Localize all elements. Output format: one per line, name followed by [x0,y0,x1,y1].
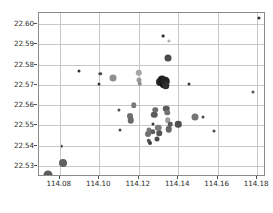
gridline-horizontal [39,166,264,167]
scatter-point [137,82,142,87]
y-tickmark [34,124,37,125]
plot-area [38,12,265,176]
scatter-point [162,82,170,90]
scatter-point [153,107,159,113]
scatter-point [258,17,261,20]
gridline-vertical [99,13,100,175]
scatter-point [43,170,52,176]
scatter-point [98,83,101,86]
scatter-point [98,72,101,75]
scatter-point [131,102,137,108]
scatter-point [165,126,172,133]
y-tick-label: 22.59 [0,39,34,48]
gridline-horizontal [39,146,264,147]
y-tick-label: 22.56 [0,100,34,109]
y-tickmark [34,84,37,85]
x-tick-label: 114.10 [86,179,111,188]
gridline-horizontal [39,85,264,86]
y-tick-label: 22.55 [0,120,34,129]
y-tickmark [34,64,37,65]
scatter-point [168,39,171,42]
x-tick-label: 114.12 [125,179,150,188]
y-tick-label: 22.60 [0,19,34,28]
y-tick-label: 22.57 [0,79,34,88]
scatter-point [151,112,158,119]
x-tick-label: 114.08 [46,179,71,188]
y-tickmark [34,43,37,44]
scatter-point [165,110,171,116]
scatter-point [161,34,164,37]
gridline-horizontal [39,44,264,45]
y-tickmark [34,165,37,166]
x-tick-label: 114.16 [204,179,229,188]
scatter-point [201,116,204,119]
scatter-plot-figure: 114.08114.10114.12114.14114.16114.1822.5… [0,0,273,213]
y-tickmark [34,104,37,105]
x-tick-label: 114.14 [165,179,190,188]
scatter-point [175,121,182,128]
scatter-point [118,128,121,131]
scatter-point [191,114,198,121]
scatter-point [78,69,81,72]
scatter-point [212,130,215,133]
gridline-vertical [257,13,258,175]
gridline-horizontal [39,65,264,66]
scatter-point [150,129,156,135]
scatter-point [154,137,159,142]
scatter-point [59,159,67,167]
gridline-vertical [60,13,61,175]
y-tick-label: 22.54 [0,140,34,149]
gridline-vertical [139,13,140,175]
scatter-point [152,122,155,125]
scatter-point [148,141,152,145]
scatter-point [128,117,135,124]
scatter-point [168,122,173,127]
scatter-point [110,74,117,81]
scatter-point [252,90,255,93]
y-tickmark [34,145,37,146]
gridline-vertical [218,13,219,175]
y-tickmark [34,23,37,24]
scatter-point [117,109,120,112]
y-tick-label: 22.53 [0,160,34,169]
gridline-vertical [178,13,179,175]
scatter-point [157,130,163,136]
scatter-point [60,145,63,148]
scatter-point [188,82,191,85]
gridline-horizontal [39,24,264,25]
gridline-horizontal [39,125,264,126]
scatter-point [135,69,142,76]
x-tick-label: 114.18 [244,179,269,188]
gridline-horizontal [39,105,264,106]
scatter-point [164,54,171,61]
y-tick-label: 22.58 [0,59,34,68]
